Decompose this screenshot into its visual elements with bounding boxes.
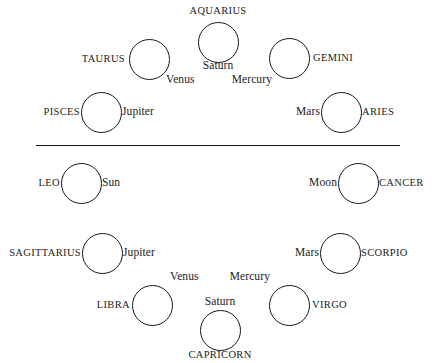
planet-label-leo-sun: Sun bbox=[102, 177, 120, 189]
sign-label-leo: LEO bbox=[39, 178, 60, 189]
planet-label-pisces-jupiter: Jupiter bbox=[122, 106, 154, 118]
sign-label-pisces: PISCES bbox=[43, 107, 80, 118]
sign-label-aquarius: AQUARIUS bbox=[189, 6, 246, 17]
sign-label-capricorn: CAPRICORN bbox=[188, 350, 251, 361]
planet-label-taurus-venus: Venus bbox=[166, 74, 195, 86]
zodiac-rulership-diagram: AQUARIUSSaturnTAURUSVenusGEMINIMercuryPI… bbox=[0, 0, 432, 363]
sign-circle-gemini bbox=[269, 38, 310, 79]
sign-circle-scorpio bbox=[320, 233, 361, 274]
sign-circle-pisces bbox=[81, 92, 122, 133]
sign-circle-aquarius bbox=[198, 22, 239, 63]
planet-label-scorpio-mars: Mars bbox=[295, 247, 319, 259]
sign-circle-cancer bbox=[338, 163, 379, 204]
sign-circle-libra bbox=[132, 285, 173, 326]
planet-label-gemini-mercury: Mercury bbox=[232, 74, 272, 86]
sign-circle-leo bbox=[61, 163, 102, 204]
sign-circle-virgo bbox=[269, 285, 310, 326]
planet-label-sagittarius-jupiter: Jupiter bbox=[123, 247, 155, 259]
sign-label-scorpio: SCORPIO bbox=[361, 248, 408, 259]
sign-circle-capricorn bbox=[200, 310, 241, 351]
sign-label-sagittarius: SAGITTARIUS bbox=[9, 248, 81, 259]
sign-label-cancer: CANCER bbox=[379, 178, 424, 189]
planet-label-cancer-moon: Moon bbox=[309, 177, 337, 189]
planet-label-aquarius-saturn: Saturn bbox=[203, 60, 234, 72]
sign-label-taurus: TAURUS bbox=[82, 54, 125, 65]
planet-label-capricorn-saturn: Saturn bbox=[205, 296, 236, 308]
planet-label-libra-venus: Venus bbox=[170, 271, 199, 283]
sign-circle-taurus bbox=[129, 39, 170, 80]
planet-label-virgo-mercury: Mercury bbox=[230, 271, 270, 283]
sign-circle-sagittarius bbox=[82, 233, 123, 274]
planet-label-aries-mars: Mars bbox=[296, 106, 320, 118]
sign-label-aries: ARIES bbox=[362, 107, 394, 118]
sign-label-gemini: GEMINI bbox=[313, 53, 353, 64]
sign-circle-aries bbox=[321, 92, 362, 133]
horizontal-divider bbox=[36, 145, 400, 146]
sign-label-libra: LIBRA bbox=[97, 300, 130, 311]
sign-label-virgo: VIRGO bbox=[312, 300, 347, 311]
